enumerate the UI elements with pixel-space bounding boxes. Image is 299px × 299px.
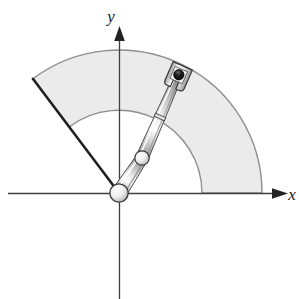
elbow-joint-circle (135, 151, 149, 165)
y-axis-label: y (105, 7, 115, 26)
y-axis-arrowhead (114, 26, 125, 41)
x-axis-arrowhead (272, 188, 288, 199)
diagram-canvas: y x (0, 0, 299, 299)
elbow-revolute-joint (135, 151, 149, 165)
workspace-annulus-fill (33, 50, 262, 193)
x-axis-label: x (287, 185, 296, 204)
base-revolute-joint (110, 184, 128, 202)
robot-workspace-figure: y x (0, 0, 299, 299)
reachable-workspace-region (33, 50, 262, 193)
base-joint-circle (110, 184, 128, 202)
